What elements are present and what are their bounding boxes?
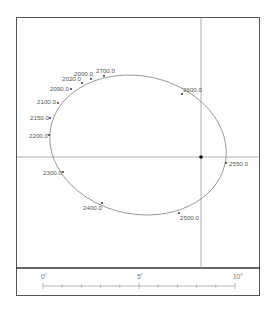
track-points: 2700.02000.02020.02090.02100.02150.02200…: [29, 67, 248, 221]
track-point-marker[interactable]: [70, 88, 72, 90]
track-point-marker[interactable]: [103, 75, 105, 77]
track-point-label: 2300.0: [43, 169, 62, 176]
track-point-label: 2020.0: [62, 75, 81, 82]
track-point-marker[interactable]: [48, 134, 50, 136]
track-point-marker[interactable]: [49, 117, 51, 119]
track-point-marker[interactable]: [81, 82, 83, 84]
track-point-label: 2700.0: [96, 67, 115, 74]
orbit-diagram: 2700.02000.02020.02090.02100.02150.02200…: [0, 0, 274, 310]
track-point-label: 2550.0: [229, 160, 248, 167]
track-point-marker[interactable]: [62, 171, 64, 173]
track-point-marker[interactable]: [225, 162, 227, 164]
scale-label: 5°: [137, 273, 144, 280]
track-point-marker[interactable]: [57, 102, 59, 104]
track-point-marker[interactable]: [181, 93, 183, 95]
track-point-label: 2500.0: [180, 214, 199, 221]
scale-label: 0°: [41, 273, 48, 280]
track-point-label: 2090.0: [50, 85, 69, 92]
track-point-label: 2150.0: [30, 114, 49, 121]
track-point-label: 2100.0: [37, 98, 56, 105]
scale-bar: 0°5°10°: [41, 273, 243, 289]
scale-label: 10°: [233, 273, 243, 280]
track-point-marker[interactable]: [90, 78, 92, 80]
track-point-label: 2200.0: [29, 132, 48, 139]
track-point-label: 2600.0: [183, 86, 202, 93]
track-point-label: 2400.0: [83, 204, 102, 211]
center-marker[interactable]: [199, 155, 203, 159]
